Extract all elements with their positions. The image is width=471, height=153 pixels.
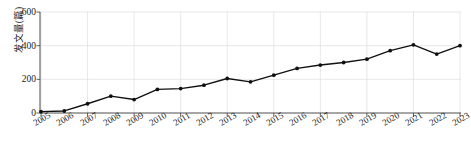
data-point-marker: [179, 87, 183, 91]
tick-marks-group: [37, 12, 461, 117]
x-axis-tick-label: 2023: [451, 111, 471, 128]
x-axis-tick-label: 2009: [125, 111, 145, 128]
x-axis-tick-label: 2008: [102, 111, 122, 128]
axis-lines-group: [40, 12, 461, 113]
data-point-marker: [109, 94, 113, 98]
data-point-marker: [225, 77, 229, 81]
data-point-marker: [458, 44, 462, 48]
data-point-marker: [388, 49, 392, 53]
x-axis-tick-label: 2013: [218, 111, 238, 128]
plot-area: [40, 12, 461, 113]
data-point-marker: [295, 66, 299, 70]
data-point-marker: [365, 57, 369, 61]
x-axis-tick-label: 2015: [265, 111, 285, 128]
data-point-marker: [202, 83, 206, 87]
data-point-marker: [272, 73, 276, 77]
x-axis-tick-label: 2018: [335, 111, 355, 128]
x-axis-tick-label: 2019: [358, 111, 378, 128]
publication-count-line-chart: 发文量(篇) 600 400 200 0 2005200620072008200…: [0, 0, 471, 153]
x-axis-tick-label: 2012: [195, 111, 215, 128]
data-line-series: [41, 45, 460, 112]
data-point-marker: [412, 43, 416, 47]
x-axis-tick-label: 2016: [288, 111, 308, 128]
data-point-marker: [86, 102, 90, 106]
data-point-marker: [62, 109, 66, 113]
data-point-marker: [155, 88, 159, 92]
y-axis-tick-label: 200: [10, 75, 36, 85]
plot-svg: [40, 12, 461, 113]
data-point-marker: [435, 52, 439, 56]
data-markers-group: [39, 43, 462, 114]
x-axis-tick-label: 2017: [311, 111, 331, 128]
x-axis-tick-label: 2011: [172, 111, 192, 128]
data-point-marker: [39, 110, 43, 114]
x-axis-tick-label: 2010: [148, 111, 168, 128]
y-axis-tick-label-group: 600 400 200 0: [8, 0, 36, 153]
y-axis-tick-label: 600: [10, 8, 36, 18]
x-axis-tick-label: 2021: [404, 111, 424, 128]
x-axis-tick-label: 2022: [428, 111, 448, 128]
x-axis-tick-label: 2020: [381, 111, 401, 128]
data-point-marker: [132, 98, 136, 102]
data-point-marker: [318, 63, 322, 67]
x-axis-tick-label: 2007: [79, 111, 99, 128]
data-point-marker: [342, 61, 346, 65]
gridlines-group: [40, 12, 461, 113]
x-axis-tick-label: 2014: [242, 111, 262, 128]
x-axis-tick-label: 2006: [55, 111, 75, 128]
y-axis-tick-label: 0: [10, 109, 36, 119]
data-point-marker: [249, 80, 253, 84]
y-axis-tick-label: 400: [10, 42, 36, 52]
